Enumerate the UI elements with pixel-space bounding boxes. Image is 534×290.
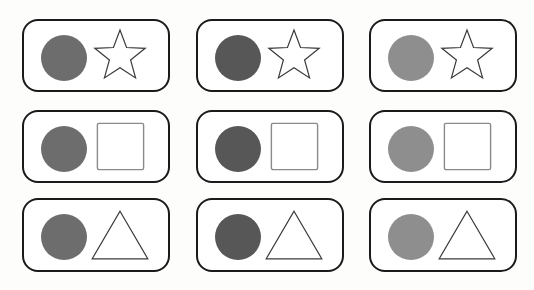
gray-circle xyxy=(215,126,261,172)
gray-circle xyxy=(215,214,261,260)
gray-circle xyxy=(388,126,434,172)
gray-circle xyxy=(388,35,434,81)
card-content xyxy=(371,112,515,181)
square-outline xyxy=(443,122,492,175)
star-outline xyxy=(438,28,496,87)
triangle-outline xyxy=(438,210,496,264)
card-content xyxy=(198,112,342,181)
shape-card[interactable] xyxy=(22,198,170,272)
card-content xyxy=(24,21,168,90)
star-outline xyxy=(91,28,149,87)
shape-card[interactable] xyxy=(22,19,170,92)
gray-circle xyxy=(388,214,434,260)
triangle-outline xyxy=(91,210,149,264)
card-content xyxy=(24,200,168,270)
triangle-outline xyxy=(265,210,323,264)
gray-circle xyxy=(41,214,87,260)
shape-card-grid xyxy=(0,0,534,290)
square-outline xyxy=(270,122,319,175)
card-content xyxy=(371,21,515,90)
gray-circle xyxy=(215,35,261,81)
card-content xyxy=(198,21,342,90)
card-content xyxy=(371,200,515,270)
shape-card[interactable] xyxy=(22,110,170,183)
star-outline xyxy=(265,28,323,87)
gray-circle xyxy=(41,35,87,81)
gray-circle xyxy=(41,126,87,172)
shape-card[interactable] xyxy=(369,110,517,183)
card-content xyxy=(24,112,168,181)
shape-card[interactable] xyxy=(196,19,344,92)
square-outline xyxy=(96,122,145,175)
shape-card[interactable] xyxy=(196,110,344,183)
card-content xyxy=(198,200,342,270)
shape-card[interactable] xyxy=(369,19,517,92)
shape-card[interactable] xyxy=(196,198,344,272)
shape-card[interactable] xyxy=(369,198,517,272)
